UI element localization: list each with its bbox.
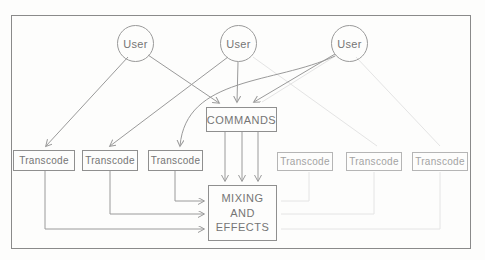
transcode-node-1-label: Transcode	[19, 155, 69, 166]
transcode-node-3: Transcode	[148, 150, 203, 171]
mixing-effects-node-label: MIXING AND EFFECTS	[216, 191, 270, 235]
transcode-node-6: Transcode	[412, 152, 468, 171]
transcode-node-3-label: Transcode	[151, 155, 201, 166]
user-node-1: User	[117, 25, 154, 62]
mixing-effects-node: MIXING AND EFFECTS	[208, 185, 277, 241]
transcode-node-5-label: Transcode	[349, 156, 399, 167]
transcode-node-2: Transcode	[82, 150, 138, 171]
transcode-node-4: Transcode	[277, 152, 333, 171]
user-node-2-label: User	[226, 38, 250, 50]
transcode-node-1: Transcode	[13, 150, 75, 171]
transcode-node-4-label: Transcode	[280, 156, 330, 167]
user-node-3: User	[331, 25, 368, 62]
mixing-line-3: EFFECTS	[216, 220, 270, 235]
transcode-node-6-label: Transcode	[415, 156, 465, 167]
user-node-1-label: User	[123, 38, 147, 50]
commands-node-label: COMMANDS	[207, 114, 276, 126]
mixing-line-2: AND	[216, 206, 270, 221]
transcode-node-2-label: Transcode	[85, 155, 135, 166]
diagram-canvas: User User User COMMANDS Transcode Transc…	[0, 0, 485, 260]
commands-node: COMMANDS	[206, 107, 277, 132]
mixing-line-1: MIXING	[216, 191, 270, 206]
user-node-3-label: User	[337, 38, 361, 50]
user-node-2: User	[220, 25, 257, 62]
transcode-node-5: Transcode	[346, 152, 402, 171]
